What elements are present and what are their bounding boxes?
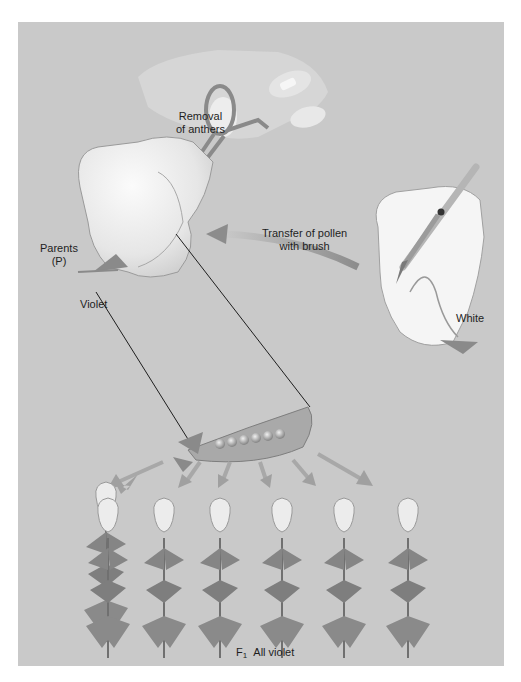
white-parent-flower <box>376 187 484 355</box>
f1-plant-2 <box>142 498 186 658</box>
label-violet: Violet <box>80 298 107 311</box>
f1-plant-6 <box>386 498 430 658</box>
label-parents: Parents (P) <box>40 242 78 268</box>
label-line: Removal <box>176 110 225 123</box>
f1-plant-1 <box>86 498 130 658</box>
illustration <box>18 22 504 666</box>
label-line: Parents <box>40 242 78 255</box>
f1-plant-5 <box>322 498 366 658</box>
label-white: White <box>456 312 484 325</box>
label-line: Transfer of pollen <box>262 227 347 240</box>
f1-plant-3 <box>198 498 242 658</box>
generation-subscript: 1 <box>243 651 247 660</box>
f1-plant-4 <box>260 498 304 658</box>
label-removal-of-anthers: Removal of anthers <box>176 110 225 136</box>
label-line: of anthers <box>176 123 225 136</box>
hand-icon <box>138 50 328 139</box>
label-transfer-of-pollen: Transfer of pollen with brush <box>262 227 347 253</box>
f1-phenotype-text: All violet <box>253 646 294 658</box>
label-f1-all-violet: F1 All violet <box>236 646 294 662</box>
diagram-panel: Removal of anthers Transfer of pollen wi… <box>18 22 504 666</box>
generation-symbol: F <box>236 646 243 658</box>
label-line: (P) <box>40 255 78 268</box>
label-line: with brush <box>262 240 347 253</box>
pea-pod <box>173 407 312 472</box>
